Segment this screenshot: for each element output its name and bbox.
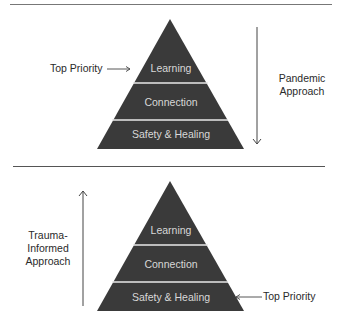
top-priority-arrow-right [107, 67, 130, 72]
trauma-informed-line3: Approach [20, 255, 76, 268]
top-layer-safety-healing: Safety & Healing [132, 128, 210, 140]
bottom-layer-safety-healing: Safety & Healing [132, 291, 210, 303]
pandemic-approach-line2: Approach [274, 85, 330, 98]
panel-divider [13, 166, 325, 167]
pandemic-approach-line1: Pandemic [274, 72, 330, 85]
trauma-informed-line1: Trauma- [20, 229, 76, 242]
up-arrow-icon [79, 191, 87, 306]
pandemic-approach-label: Pandemic Approach [274, 72, 330, 98]
top-layer-connection: Connection [144, 96, 197, 108]
bottom-layer-learning: Learning [151, 224, 192, 236]
bottom-layer-connection: Connection [144, 258, 197, 270]
trauma-informed-approach-label: Trauma- Informed Approach [20, 229, 76, 268]
trauma-informed-line2: Informed [20, 242, 76, 255]
down-arrow-icon [253, 27, 261, 144]
top-layer-learning: Learning [151, 62, 192, 74]
top-priority-label: Top Priority [50, 62, 103, 75]
pyramid-diagrams [0, 0, 339, 327]
bottom-priority-arrow-left [236, 295, 262, 300]
bottom-priority-label: Top Priority [263, 290, 316, 303]
